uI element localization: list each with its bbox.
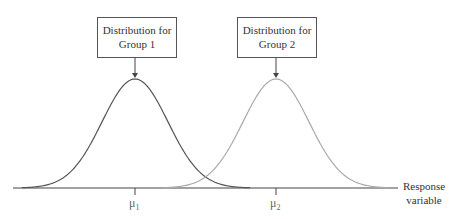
group1-label-box: Distribution for Group 1 — [97, 17, 177, 58]
group1-distribution-curve — [22, 79, 250, 188]
axis-label-line2: variable — [398, 193, 450, 207]
group1-label-line1: Distribution for — [98, 23, 176, 37]
group2-label-box: Distribution for Group 2 — [237, 17, 317, 58]
group2-label-line2: Group 2 — [238, 37, 316, 51]
mu1-subscript: 1 — [135, 203, 139, 212]
mu1-label: μ1 — [129, 196, 139, 212]
group1-arrowhead-icon — [132, 73, 138, 78]
axis-label-line1: Response — [398, 179, 450, 193]
mu2-subscript: 2 — [276, 203, 280, 212]
mu2-label: μ2 — [270, 196, 280, 212]
group2-arrowhead-icon — [273, 73, 279, 78]
group2-distribution-curve — [163, 79, 390, 188]
group2-label-line1: Distribution for — [238, 23, 316, 37]
response-variable-label: Response variable — [398, 179, 450, 207]
diagram-canvas — [0, 0, 456, 219]
group1-label-line2: Group 1 — [98, 37, 176, 51]
